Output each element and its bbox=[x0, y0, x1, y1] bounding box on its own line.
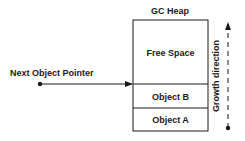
heap-title: GC Heap bbox=[151, 6, 190, 16]
gc-heap-diagram: GC Heap Free Space Object B Object A Nex… bbox=[0, 0, 245, 141]
pointer-label: Next Object Pointer bbox=[10, 68, 94, 78]
region-object-b: Object B bbox=[152, 92, 190, 102]
growth-origin-dot bbox=[226, 126, 230, 130]
growth-label: Growth direction bbox=[211, 40, 221, 112]
region-free-space: Free Space bbox=[146, 48, 194, 58]
region-object-a: Object A bbox=[152, 115, 189, 125]
